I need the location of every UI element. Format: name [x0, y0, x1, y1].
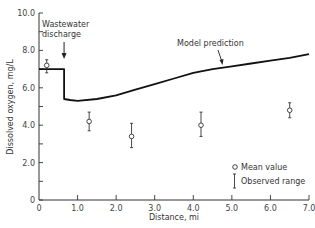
model-prediction-label: Model prediction [177, 39, 244, 48]
observation-point [287, 103, 292, 118]
x-tick-label: 5.0 [225, 204, 238, 213]
legend-mean-value: Mean value [241, 163, 287, 172]
dissolved-oxygen-chart: 02.04.06.08.010.001.02.03.04.05.06.07.0 … [0, 0, 315, 228]
x-axis-label: Distance, mi [149, 213, 199, 222]
x-tick-label: 1.0 [71, 204, 84, 213]
annotations: Wastewater discharge Model prediction [42, 20, 244, 65]
observation-point [129, 123, 134, 147]
legend: Mean value Observed range [233, 163, 306, 188]
x-tick-label: 7.0 [303, 204, 315, 213]
y-tick-label: 0 [30, 196, 35, 205]
wastewater-label-line2: discharge [42, 30, 81, 39]
y-tick-label: 4.0 [22, 121, 35, 130]
legend-observed-range: Observed range [241, 177, 305, 186]
wastewater-label-line1: Wastewater [42, 20, 90, 29]
observation-point [44, 60, 49, 73]
y-tick-label: 8.0 [22, 46, 35, 55]
x-tick-label: 0 [36, 204, 41, 213]
y-tick-label: 6.0 [22, 84, 35, 93]
mean-value-legend-icon [233, 165, 238, 170]
observed-range-legend-icon [233, 174, 236, 188]
y-tick-label: 2.0 [22, 159, 35, 168]
x-tick-label: 6.0 [264, 204, 277, 213]
model-prediction-line [39, 54, 309, 101]
x-tick-label: 4.0 [187, 204, 200, 213]
x-tick-label: 2.0 [110, 204, 123, 213]
x-tick-label: 3.0 [148, 204, 161, 213]
observation-point [87, 112, 92, 131]
y-axis-label: Dissolved oxygen, mg/L [6, 59, 15, 155]
y-tick-label: 10.0 [17, 9, 35, 18]
observed-points [44, 60, 292, 148]
observation-point [199, 112, 204, 136]
